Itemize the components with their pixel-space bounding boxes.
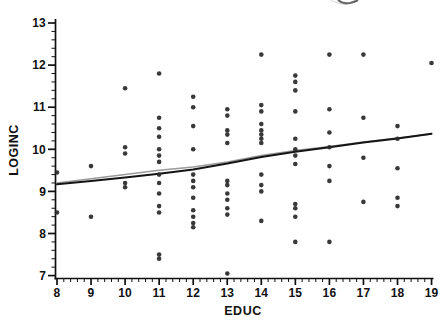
data-point xyxy=(293,206,298,211)
data-point xyxy=(157,181,162,186)
data-point xyxy=(361,200,366,205)
data-point xyxy=(327,145,332,150)
data-point xyxy=(327,52,332,57)
data-point xyxy=(157,191,162,196)
data-point xyxy=(259,189,264,194)
data-point xyxy=(89,164,94,169)
plot-canvas: 789101112138910111213141516171819EDUCLOG… xyxy=(0,0,448,328)
y-tick-label: 9 xyxy=(39,185,46,199)
x-tick-label: 8 xyxy=(54,286,61,300)
y-tick-label: 8 xyxy=(39,227,46,241)
x-tick-label: 10 xyxy=(118,286,132,300)
data-point xyxy=(327,164,332,169)
x-tick-label: 18 xyxy=(391,286,405,300)
y-tick-label: 13 xyxy=(32,16,46,30)
x-tick-label: 15 xyxy=(288,286,302,300)
data-point xyxy=(225,183,230,188)
data-point xyxy=(293,88,298,93)
data-point xyxy=(259,122,264,127)
data-point xyxy=(293,153,298,158)
data-point xyxy=(123,145,128,150)
data-point xyxy=(225,206,230,211)
x-tick-label: 17 xyxy=(357,286,371,300)
x-axis-title: EDUC xyxy=(224,304,261,318)
data-point xyxy=(293,162,298,167)
data-point xyxy=(191,195,196,200)
data-point xyxy=(293,240,298,245)
data-point xyxy=(191,172,196,177)
data-point xyxy=(327,130,332,135)
data-point xyxy=(157,160,162,165)
data-point xyxy=(259,141,264,146)
y-tick-label: 7 xyxy=(39,269,46,283)
x-tick-label: 16 xyxy=(323,286,337,300)
x-tick-label: 9 xyxy=(88,286,95,300)
y-tick-label: 11 xyxy=(33,100,46,114)
data-point xyxy=(123,86,128,91)
data-point xyxy=(191,105,196,110)
x-tick-label: 13 xyxy=(220,286,234,300)
data-point xyxy=(361,115,366,120)
x-tick-label: 14 xyxy=(254,286,268,300)
data-point xyxy=(259,132,264,137)
data-point xyxy=(225,141,230,146)
data-point xyxy=(225,113,230,118)
data-point xyxy=(293,147,298,152)
data-point xyxy=(191,124,196,129)
data-point xyxy=(361,155,366,160)
data-point xyxy=(225,132,230,137)
data-point xyxy=(293,80,298,85)
data-point xyxy=(191,208,196,213)
data-point xyxy=(191,94,196,99)
data-point xyxy=(395,137,400,142)
data-point xyxy=(327,240,332,245)
data-point xyxy=(55,210,60,215)
clipped-text-fragment xyxy=(338,0,358,3)
data-point xyxy=(157,252,162,257)
data-point xyxy=(395,204,400,209)
data-point xyxy=(225,191,230,196)
data-point xyxy=(191,179,196,184)
y-axis-title: LOGINC xyxy=(7,124,21,176)
data-point xyxy=(123,181,128,186)
data-point xyxy=(89,214,94,219)
x-tick-label: 12 xyxy=(186,286,200,300)
data-point xyxy=(157,257,162,262)
data-point xyxy=(259,109,264,114)
data-point xyxy=(259,103,264,108)
data-point xyxy=(225,271,230,276)
data-point xyxy=(293,73,298,78)
data-point xyxy=(327,107,332,112)
data-point xyxy=(293,109,298,114)
data-point xyxy=(395,124,400,129)
data-point xyxy=(259,52,264,57)
data-point xyxy=(157,134,162,139)
data-point xyxy=(361,52,366,57)
data-point xyxy=(259,219,264,224)
data-point xyxy=(157,147,162,152)
data-point xyxy=(157,71,162,76)
data-point xyxy=(157,210,162,215)
data-point xyxy=(225,212,230,217)
data-point xyxy=(157,115,162,120)
y-tick-label: 12 xyxy=(32,58,46,72)
data-point xyxy=(395,195,400,200)
data-point xyxy=(259,172,264,177)
data-point xyxy=(259,137,264,142)
scatter-chart: 789101112138910111213141516171819EDUCLOG… xyxy=(0,0,448,328)
data-point xyxy=(157,153,162,158)
data-point xyxy=(327,179,332,184)
data-point xyxy=(191,147,196,152)
data-point xyxy=(157,126,162,131)
data-point xyxy=(55,170,60,175)
data-point xyxy=(259,183,264,188)
data-point xyxy=(157,172,162,177)
x-tick-label: 11 xyxy=(153,286,166,300)
data-point xyxy=(293,137,298,142)
data-point xyxy=(157,204,162,209)
y-tick-label: 10 xyxy=(32,143,46,157)
data-point xyxy=(191,225,196,230)
data-point xyxy=(293,214,298,219)
data-point xyxy=(225,107,230,112)
data-point xyxy=(225,128,230,133)
